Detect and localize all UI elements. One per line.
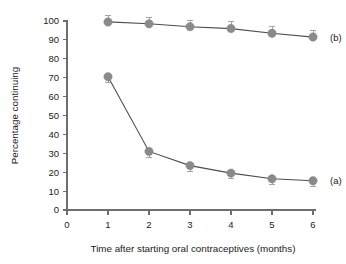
series-line-2 (108, 77, 313, 181)
line-chart-canvas: 0102030405060708090100 0123456 (b)(a) Ti… (0, 0, 346, 264)
y-axis-ticks: 0102030405060708090100 (43, 15, 67, 215)
y-tick-label: 90 (48, 34, 59, 45)
data-point-marker (268, 175, 276, 183)
data-point-marker (227, 169, 235, 177)
data-point-marker (309, 177, 317, 185)
data-point-marker (104, 73, 112, 81)
data-point-marker (309, 33, 317, 41)
data-point-marker (104, 18, 112, 26)
series-label-a: (a) (330, 175, 342, 186)
x-tick-label: 3 (187, 219, 192, 230)
data-point-marker (145, 147, 153, 155)
y-tick-label: 60 (48, 91, 59, 102)
data-point-marker (268, 29, 276, 37)
x-axis-title: Time after starting oral contraceptives … (91, 243, 296, 254)
x-tick-label: 4 (228, 219, 233, 230)
data-point-marker (186, 22, 194, 30)
y-tick-label: 40 (48, 129, 59, 140)
series-layer (104, 15, 317, 186)
y-tick-label: 0 (54, 204, 59, 215)
data-point-marker (186, 161, 194, 169)
data-point-marker (145, 20, 153, 28)
series-line-1 (108, 22, 313, 37)
y-tick-label: 10 (48, 186, 59, 197)
series-inline-labels: (b)(a) (330, 32, 342, 187)
series-label-b: (b) (330, 32, 342, 43)
y-tick-label: 20 (48, 167, 59, 178)
x-tick-label: 1 (105, 219, 110, 230)
x-tick-label: 0 (64, 219, 69, 230)
y-tick-label: 100 (43, 15, 59, 26)
x-tick-label: 5 (269, 219, 274, 230)
x-axis-ticks: 0123456 (64, 210, 315, 230)
y-tick-label: 50 (48, 110, 59, 121)
y-axis-title: Percentage continuing (9, 67, 20, 165)
y-tick-label: 30 (48, 148, 59, 159)
y-tick-label: 70 (48, 72, 59, 83)
data-point-marker (227, 24, 235, 32)
x-tick-label: 6 (310, 219, 315, 230)
x-tick-label: 2 (146, 219, 151, 230)
y-tick-label: 80 (48, 53, 59, 64)
chart-figure: 0102030405060708090100 0123456 (b)(a) Ti… (0, 0, 346, 264)
